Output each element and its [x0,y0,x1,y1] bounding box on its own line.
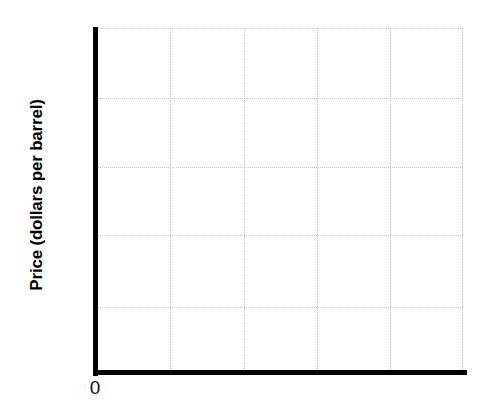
gridline-horizontal [97,235,463,236]
origin-tick-label: 0 [84,376,106,400]
x-axis-line [93,370,467,375]
gridline-vertical [317,28,318,373]
gridline-horizontal [97,98,463,99]
y-axis-label: Price (dollars per barrel) [24,45,50,345]
gridline-horizontal [97,307,463,308]
gridline-vertical [244,28,245,373]
gridline-vertical [462,28,463,373]
chart-container: Price (dollars per barrel) 0 [0,0,483,412]
gridline-vertical [170,28,171,373]
plot-area [97,28,463,373]
y-axis-line [93,27,98,376]
gridline-horizontal [97,167,463,168]
gridline-vertical [390,28,391,373]
gridline-horizontal [97,28,463,29]
